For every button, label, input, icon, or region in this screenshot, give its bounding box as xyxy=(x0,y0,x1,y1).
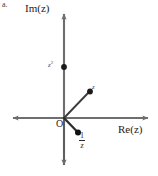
origin-label: O xyxy=(56,119,63,129)
point-label-z-squared: z2 xyxy=(48,60,53,69)
point-z-squared xyxy=(61,64,67,70)
vector-to-z xyxy=(64,92,89,118)
imaginary-axis-label: Im(z) xyxy=(25,3,49,14)
complex-plane-figure: a. Im(z) Re(z) O z2 z 1 z xyxy=(0,0,158,176)
point-label-one-over-z: 1 z xyxy=(79,132,85,150)
point-label-z: z xyxy=(92,84,95,91)
fraction-numerator: 1 xyxy=(79,132,85,141)
z-squared-exponent: 2 xyxy=(51,60,54,65)
real-axis-label: Re(z) xyxy=(118,124,142,135)
panel-label: a. xyxy=(2,1,8,9)
fraction-denominator: z xyxy=(79,141,85,150)
vector-to-one-over-z xyxy=(64,118,78,132)
